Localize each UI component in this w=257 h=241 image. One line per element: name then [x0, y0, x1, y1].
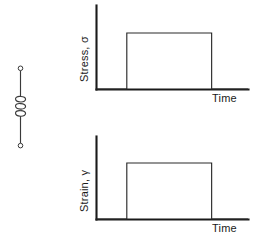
spring-coil-2 [16, 104, 26, 110]
strain-y-axis-label: Strain, γ [78, 170, 90, 212]
stress-y-axis-label: Stress, σ [78, 36, 90, 82]
strain-x-axis-label: Time [212, 222, 237, 234]
stress-x-axis-label: Time [212, 92, 237, 104]
spring-coil-1 [16, 96, 26, 102]
spring-bottom-node [18, 143, 23, 148]
spring-top-node [18, 66, 23, 71]
chart-strain: Strain, γ Time [78, 137, 249, 235]
figure-svg: Stress, σ Time Strain, γ Time [0, 0, 257, 241]
spring-coils [16, 96, 26, 119]
strain-step-curve [97, 163, 249, 219]
spring-element [16, 66, 26, 148]
stress-step-curve [97, 33, 249, 89]
chart-stress: Stress, σ Time [78, 6, 249, 105]
spring-coil-3 [16, 111, 26, 117]
figure-container: Stress, σ Time Strain, γ Time [0, 0, 257, 241]
